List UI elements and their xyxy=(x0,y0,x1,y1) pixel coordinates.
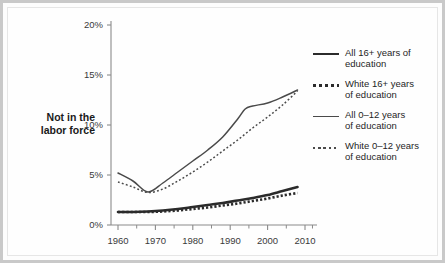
legend-item: White 16+ years of education xyxy=(313,78,443,100)
legend-label-line-1: White 16+ years xyxy=(345,78,443,89)
legend-label-line-1: All 16+ years of xyxy=(345,47,443,58)
x-axis-tick-label: 1970 xyxy=(145,235,166,246)
y-axis-tick-label: 10% xyxy=(84,119,104,130)
legend-item: All 0–12 years of education xyxy=(313,109,443,131)
legend-swatch-dotted-thin-icon xyxy=(313,147,339,149)
legend-item-label: White 0–12 years of education xyxy=(345,140,443,162)
y-axis-tick-label: 0% xyxy=(89,219,103,230)
y-axis-tick-label: 20% xyxy=(84,19,104,30)
x-axis-tick-label: 1960 xyxy=(107,235,128,246)
legend-label-line-2: of education xyxy=(345,151,443,162)
legend-label-line-2: education xyxy=(345,58,443,69)
legend-item-label: All 16+ years of education xyxy=(345,47,443,69)
chart-legend: All 16+ years of education White 16+ yea… xyxy=(313,47,443,171)
series-line xyxy=(118,90,298,192)
legend-swatch-solid-thick-icon xyxy=(313,53,339,59)
legend-item-label: White 16+ years of education xyxy=(345,78,443,100)
y-axis-tick-label: 5% xyxy=(89,169,103,180)
legend-swatch-solid-thin-icon xyxy=(313,116,339,121)
legend-swatch-dotted-thick-icon xyxy=(313,84,339,87)
legend-item: White 0–12 years of education xyxy=(313,140,443,162)
legend-item-label: All 0–12 years of education xyxy=(345,109,443,131)
x-axis-tick-label: 2000 xyxy=(257,235,278,246)
legend-label-line-2: of education xyxy=(345,120,443,131)
legend-label-line-2: of education xyxy=(345,89,443,100)
legend-label-line-1: White 0–12 years xyxy=(345,140,443,151)
y-axis-tick-label: 15% xyxy=(84,69,104,80)
legend-item: All 16+ years of education xyxy=(313,47,443,69)
x-axis-tick-label: 1980 xyxy=(182,235,203,246)
x-axis-tick-label: 2010 xyxy=(294,235,315,246)
x-axis-tick-label: 1990 xyxy=(220,235,241,246)
series-line xyxy=(118,91,298,193)
series-line xyxy=(118,193,298,212)
chart-figure: Not in the labor force 0%5%10%15%20%1960… xyxy=(0,0,445,263)
legend-label-line-1: All 0–12 years xyxy=(345,109,443,120)
